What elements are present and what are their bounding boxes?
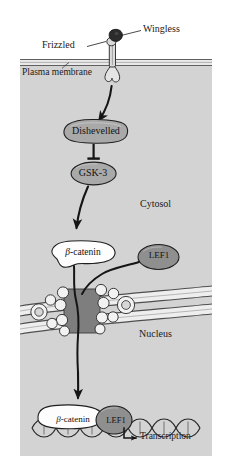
label-frizzled: Frizzled bbox=[42, 40, 75, 50]
label-plasma-membrane: Plasma membrane bbox=[22, 68, 92, 78]
label-transcription: Transcription bbox=[140, 432, 191, 442]
node-label-beta-catenin-nucleus: β-catenin bbox=[40, 415, 106, 424]
plasma-membrane bbox=[20, 60, 212, 66]
label-cytosol: Cytosol bbox=[140, 199, 171, 209]
label-nucleus: Nucleus bbox=[139, 329, 172, 339]
catenin-text-nucleus: -catenin bbox=[61, 414, 90, 424]
node-label-lef1-nucleus: LEF1 bbox=[100, 416, 132, 425]
node-label-lef1-cytosol: LEF1 bbox=[141, 251, 177, 260]
catenin-text-cytosol: -catenin bbox=[70, 247, 101, 257]
node-label-gsk3: GSK-3 bbox=[64, 168, 122, 178]
figure-panel: Wingless Frizzled Plasma membrane Cytoso… bbox=[0, 0, 226, 472]
label-wingless: Wingless bbox=[143, 24, 180, 34]
node-label-beta-catenin-cytosol: β-catenin bbox=[50, 248, 116, 258]
node-label-dishevelled: Dishevelled bbox=[59, 126, 133, 136]
wingless-ligand bbox=[109, 29, 122, 41]
